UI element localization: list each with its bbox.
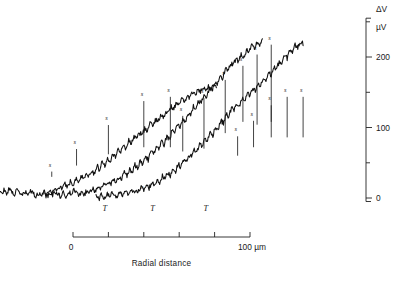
x-axis-line [73,232,250,237]
t-marker-labels-group: TTT [103,204,210,213]
s-marker-label: s [268,34,271,41]
x-tick-label-100: 100 µm [238,242,266,252]
s-marker-label: s [105,114,108,121]
x-axis-ticks [108,232,214,237]
s-marker-label: s [73,138,76,145]
figure-container: sssssssssssssssss TTT 200 100 0 ΔV µV 0 … [0,0,403,281]
y-tick-label-100: 100 [376,123,390,133]
s-marker-labels-group: sssssssssssssssss [49,34,303,190]
y-tick-label-200: 200 [376,52,390,62]
t-marker-label: T [103,204,109,213]
y-axis-unit: µV [376,22,387,32]
x-axis-scalebar: 0 100 µm Radial distance [69,232,266,268]
trace-line-2 [45,39,263,199]
s-marker-label: s [284,86,287,93]
s-marker-label: s [235,125,238,132]
s-marker-label: s [49,161,52,168]
s-marker-label: s [254,44,257,51]
t-marker-label: T [150,204,156,213]
y-axis-title: ΔV [376,4,388,14]
x-axis-caption: Radial distance [132,259,192,268]
s-marker-label: s [300,86,303,93]
s-marker-label: s [268,94,271,101]
traces-group [0,39,303,201]
s-marker-label: s [240,55,243,62]
s-marker-label: s [141,90,144,97]
y-axis-scalebar: 200 100 0 ΔV µV [366,4,390,203]
x-tick-label-0: 0 [69,242,74,252]
radial-distance-chart: sssssssssssssssss TTT 200 100 0 ΔV µV 0 … [0,0,403,281]
s-marker-label: s [167,86,170,93]
s-marker-label: s [180,105,183,112]
y-axis-ticks [366,22,372,198]
y-axis-line [366,18,371,201]
s-marker-droplines-group [52,45,303,177]
t-marker-label: T [203,204,209,213]
y-tick-label-0: 0 [376,193,381,203]
s-marker-label: s [250,110,253,117]
